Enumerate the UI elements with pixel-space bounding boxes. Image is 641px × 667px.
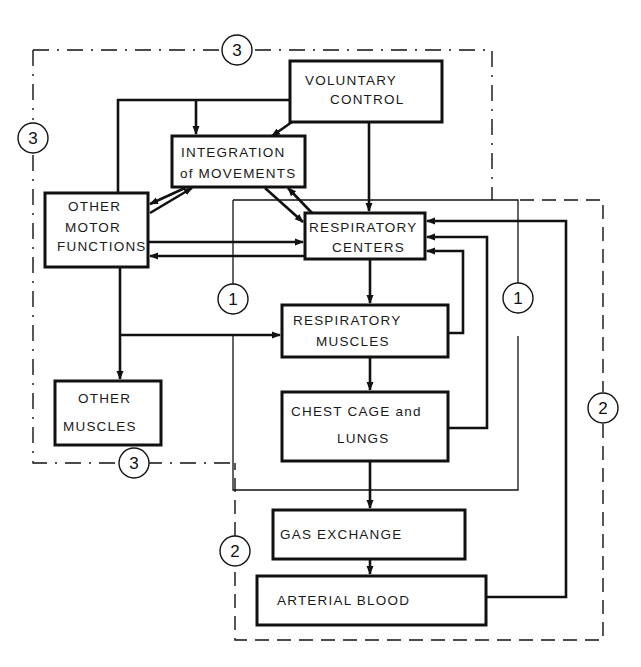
svg-text:2: 2 <box>598 399 607 418</box>
other-motor-functions-box: OTHER MOTOR FUNCTIONS <box>45 193 148 267</box>
svg-text:RESPIRATORY: RESPIRATORY <box>309 220 417 235</box>
svg-text:RESPIRATORY: RESPIRATORY <box>293 313 401 328</box>
svg-text:GAS EXCHANGE: GAS EXCHANGE <box>280 527 402 542</box>
svg-text:MUSCLES: MUSCLES <box>316 334 390 349</box>
svg-text:1: 1 <box>513 289 522 308</box>
respiratory-muscles-box: RESPIRATORY MUSCLES <box>282 305 448 357</box>
svg-text:FUNCTIONS: FUNCTIONS <box>57 239 147 254</box>
respiratory-control-diagram: VOLUNTARY CONTROL INTEGRATION of MOVEMEN… <box>0 0 641 667</box>
chest-cage-and-lungs-box: CHEST CAGE and LUNGS <box>282 392 448 461</box>
svg-text:CENTERS: CENTERS <box>332 240 405 255</box>
loop-2-left-label: 2 <box>220 536 250 566</box>
loop-3-left-label: 3 <box>18 123 48 153</box>
svg-text:MUSCLES: MUSCLES <box>63 419 137 434</box>
gas-exchange-box: GAS EXCHANGE <box>273 510 465 559</box>
loop-3-top-label: 3 <box>222 35 252 65</box>
svg-text:CONTROL: CONTROL <box>330 92 404 107</box>
svg-text:2: 2 <box>230 542 239 561</box>
other-muscles-box: OTHER MUSCLES <box>55 381 161 445</box>
svg-text:MOTOR: MOTOR <box>65 220 121 235</box>
loop-3-bottom-label: 3 <box>119 448 149 478</box>
arterial-blood-box: ARTERIAL BLOOD <box>257 576 486 625</box>
svg-text:3: 3 <box>129 454 138 473</box>
voluntary-control-box: VOLUNTARY CONTROL <box>290 61 442 122</box>
loop-1-left-label: 1 <box>218 284 248 314</box>
svg-text:LUNGS: LUNGS <box>337 431 390 446</box>
svg-text:OTHER: OTHER <box>78 391 131 406</box>
svg-text:ARTERIAL BLOOD: ARTERIAL BLOOD <box>277 593 410 608</box>
loop-1-right-label: 1 <box>503 283 533 313</box>
svg-text:CHEST CAGE and: CHEST CAGE and <box>291 404 422 419</box>
svg-text:1: 1 <box>228 290 237 309</box>
integration-of-movements-box: INTEGRATION of MOVEMENTS <box>172 136 305 187</box>
svg-text:3: 3 <box>28 129 37 148</box>
svg-text:3: 3 <box>232 41 241 60</box>
svg-text:INTEGRATION: INTEGRATION <box>181 145 285 160</box>
svg-text:OTHER: OTHER <box>68 199 121 214</box>
svg-text:VOLUNTARY: VOLUNTARY <box>305 73 397 88</box>
svg-text:of MOVEMENTS: of MOVEMENTS <box>180 166 296 181</box>
loop-2-right-label: 2 <box>588 393 618 423</box>
respiratory-centers-box: RESPIRATORY CENTERS <box>305 213 425 259</box>
